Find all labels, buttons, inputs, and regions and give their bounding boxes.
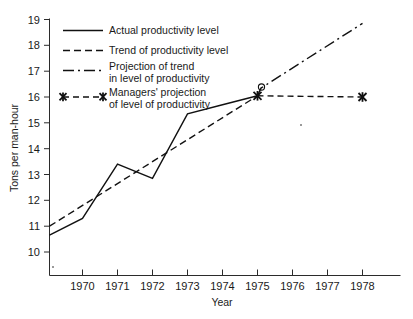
legend-label-managers-line2: of level of productivity [109,98,211,110]
y-tick-label-16: 16 [28,91,40,103]
legend-x-marker-right-icon [100,93,107,102]
y-axis-ticks [44,20,50,253]
legend-item-actual[interactable]: Actual productivity level [63,24,219,36]
x-tick-label-1978: 1978 [350,280,374,292]
y-tick-label-17: 17 [28,65,40,77]
legend-label-projection-line2: in level of productivity [109,72,210,84]
x-tick-label-1976: 1976 [280,280,304,292]
chart-legend: Actual productivity level Trend of produ… [60,24,229,110]
axis-lines [50,19,401,276]
x-tick-label-1971: 1971 [105,280,129,292]
y-tick-label-12: 12 [28,194,40,206]
legend-label-trend-line1: Trend of productivity level [109,44,228,56]
y-axis-tick-labels: 19 18 17 16 15 14 13 12 11 10 [28,14,40,259]
x-tick-label-1973: 1973 [175,280,199,292]
productivity-line-chart: 19 18 17 16 15 14 13 12 11 10 1970 1971 [0,0,413,319]
scan-speck-left [52,266,54,268]
y-tick-label-13: 13 [28,169,40,181]
y-tick-label-14: 14 [28,143,40,155]
series-projection-of-trend-line [258,23,363,95]
series-trend-productivity-line [50,96,258,226]
y-tick-label-10: 10 [28,246,40,258]
y-tick-label-15: 15 [28,117,40,129]
series-actual-productivity-line [50,96,258,235]
legend-item-managers[interactable]: Managers' projection of level of product… [60,86,211,110]
legend-label-managers-line1: Managers' projection [109,86,206,98]
x-tick-label-1977: 1977 [315,280,339,292]
x-axis-title: Year [211,296,233,308]
x-tick-label-1970: 1970 [70,280,94,292]
scan-speck-mid [300,124,302,126]
x-axis-ticks [83,270,363,276]
x-tick-label-1975: 1975 [245,280,269,292]
series-managers-projection-line [258,96,363,97]
x-tick-label-1974: 1974 [210,280,234,292]
y-tick-label-18: 18 [28,39,40,51]
y-tick-label-11: 11 [29,220,40,232]
x-tick-label-1972: 1972 [140,280,164,292]
y-tick-label-19: 19 [28,14,40,26]
legend-item-trend[interactable]: Trend of productivity level [63,44,228,56]
y-axis-title: Tons per man-hour [8,103,20,192]
chart-figure: 19 18 17 16 15 14 13 12 11 10 1970 1971 [0,0,413,319]
legend-label-actual-line1: Actual productivity level [109,24,219,36]
x-axis-tick-labels: 1970 1971 1972 1973 1974 1975 1976 1977 … [70,280,374,292]
legend-item-projection[interactable]: Projection of trend in level of producti… [63,60,210,84]
legend-label-projection-line1: Projection of trend [109,60,194,72]
